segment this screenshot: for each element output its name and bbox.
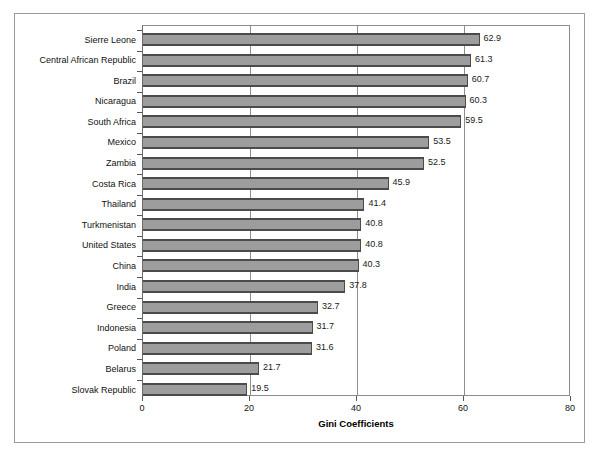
bar-value-label: 31.6 [316,341,334,354]
figure-frame: Sierre LeoneCentral African RepublicBraz… [14,13,585,443]
bar-row: 62.9 [143,30,569,50]
bar [143,136,429,149]
bar [143,177,389,190]
bar-value-label: 32.7 [322,300,340,313]
bar-row: 45.9 [143,174,569,194]
y-axis-category-label: Mexico [107,137,136,147]
y-axis-category-label: Slovak Republic [71,385,136,395]
bar [143,74,468,87]
y-axis-category-label: Turkmenistan [82,220,136,230]
y-axis-category-label: Central African Republic [39,55,136,65]
y-axis-category-label: Greece [106,302,136,312]
x-axis-tick [463,396,464,401]
y-axis-category-labels: Sierre LeoneCentral African RepublicBraz… [15,25,142,396]
bar-value-label: 45.9 [393,176,411,189]
bar [143,115,461,128]
bar-row: 61.3 [143,51,569,71]
bar-row: 60.7 [143,71,569,91]
y-axis-category-label: United States [82,240,136,250]
bar-value-label: 37.8 [349,279,367,292]
y-axis-category-label: Nicaragua [95,96,136,106]
y-axis-category-label: Belarus [105,364,136,374]
bar-row: 21.7 [143,359,569,379]
x-axis-tick-label: 60 [458,403,468,413]
x-axis-tick [142,396,143,401]
bar-value-label: 19.5 [251,382,269,395]
bar-value-label: 62.9 [484,32,502,45]
bar-row: 32.7 [143,298,569,318]
x-axis-tick [249,396,250,401]
bar-value-label: 40.8 [365,238,383,251]
bar-row: 59.5 [143,112,569,132]
bar [143,54,471,67]
bar-value-label: 52.5 [428,156,446,169]
y-axis-category-label: Thailand [101,199,136,209]
x-axis-tick-label: 40 [351,403,361,413]
x-axis-title: Gini Coefficients [142,418,570,429]
bar-row: 31.6 [143,339,569,359]
x-axis-tick [356,396,357,401]
y-axis-category-label: India [116,282,136,292]
bar-value-label: 60.3 [470,94,488,107]
bar-row: 31.7 [143,318,569,338]
bar [143,239,361,252]
bar-row: 40.3 [143,256,569,276]
bar [143,157,424,170]
bar [143,362,259,375]
bar-value-label: 21.7 [263,361,281,374]
x-axis-tick-label: 0 [139,403,144,413]
x-axis: Gini Coefficients 020406080 [142,396,570,444]
y-axis-category-label: Sierre Leone [84,35,136,45]
plot-area: 62.961.360.760.359.553.552.545.941.440.8… [142,25,570,396]
bar-value-label: 41.4 [368,197,386,210]
x-axis-tick-label: 20 [244,403,254,413]
bar-value-label: 61.3 [475,53,493,66]
y-axis-category-label: Brazil [113,76,136,86]
bar-value-label: 60.7 [472,73,490,86]
bar-value-label: 40.8 [365,217,383,230]
y-axis-category-label: Indonesia [97,323,136,333]
bar-row: 41.4 [143,195,569,215]
x-axis-tick [570,396,571,401]
y-axis-category-label: China [112,261,136,271]
bar-series: 62.961.360.760.359.553.552.545.941.440.8… [143,26,569,395]
bar [143,383,247,396]
bar-row: 60.3 [143,92,569,112]
bar-row: 40.8 [143,215,569,235]
bar [143,218,361,231]
y-axis-category-label: Poland [108,343,136,353]
bar-value-label: 40.3 [363,258,381,271]
bar-value-label: 31.7 [317,320,335,333]
bar [143,342,312,355]
bar-row: 52.5 [143,154,569,174]
bar [143,33,480,46]
x-axis-tick-label: 80 [565,403,575,413]
bar-value-label: 53.5 [433,135,451,148]
bar [143,95,466,108]
bar [143,259,359,272]
y-axis-category-label: South Africa [87,117,136,127]
bar [143,321,313,334]
y-axis-category-label: Zambia [106,158,136,168]
bar-row: 40.8 [143,236,569,256]
bar [143,280,345,293]
bar-row: 37.8 [143,277,569,297]
y-axis-category-label: Costa Rica [92,179,136,189]
bar [143,198,364,211]
bar-value-label: 59.5 [465,114,483,127]
bar [143,301,318,314]
bar-row: 53.5 [143,133,569,153]
